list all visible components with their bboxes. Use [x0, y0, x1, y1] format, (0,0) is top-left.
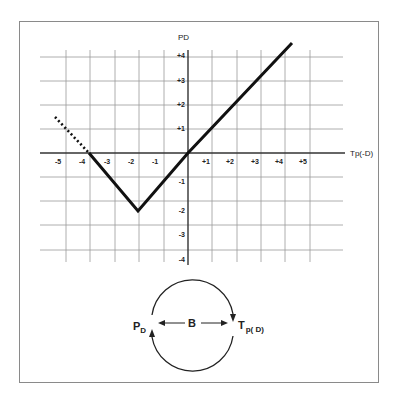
svg-text:+5: +5 [299, 158, 307, 165]
cycle-diagram: PD B Tp( D) [133, 280, 264, 371]
arrowhead-up-icon [149, 329, 155, 337]
x-axis-label: Tp(-D) [350, 149, 373, 158]
svg-text:+1: +1 [202, 158, 210, 165]
bottom-arc [152, 336, 233, 371]
svg-text:+1: +1 [177, 125, 185, 132]
node-pd: PD [133, 320, 146, 335]
svg-text:+2: +2 [177, 101, 185, 108]
svg-text:+3: +3 [251, 158, 259, 165]
svg-text:-1: -1 [179, 178, 185, 185]
svg-text:-1: -1 [152, 158, 158, 165]
figure: PD Tp(-D) -5 -4 -3 -2 -1 +1 +2 +3 +4 +5 … [0, 0, 397, 401]
arrow-right-icon [221, 320, 228, 326]
arrowhead-down-icon [230, 314, 236, 322]
svg-text:-4: -4 [79, 158, 85, 165]
svg-text:+4: +4 [275, 158, 283, 165]
svg-text:-5: -5 [55, 158, 61, 165]
svg-text:-2: -2 [179, 207, 185, 214]
figure-frame [20, 22, 379, 383]
grid [40, 50, 343, 262]
node-b: B [188, 317, 196, 329]
svg-text:+4: +4 [177, 52, 185, 59]
svg-text:-4: -4 [179, 256, 185, 263]
arrow-left-icon [158, 320, 165, 326]
dotted-series-line [55, 117, 89, 153]
top-arc [152, 280, 233, 315]
solid-series-line [89, 43, 292, 211]
svg-text:+3: +3 [177, 77, 185, 84]
svg-text:+2: +2 [226, 158, 234, 165]
node-tpd: Tp( D) [238, 319, 264, 334]
y-axis-label: PD [178, 33, 189, 42]
svg-text:-3: -3 [179, 231, 185, 238]
svg-text:-3: -3 [104, 158, 110, 165]
svg-text:-2: -2 [128, 158, 134, 165]
